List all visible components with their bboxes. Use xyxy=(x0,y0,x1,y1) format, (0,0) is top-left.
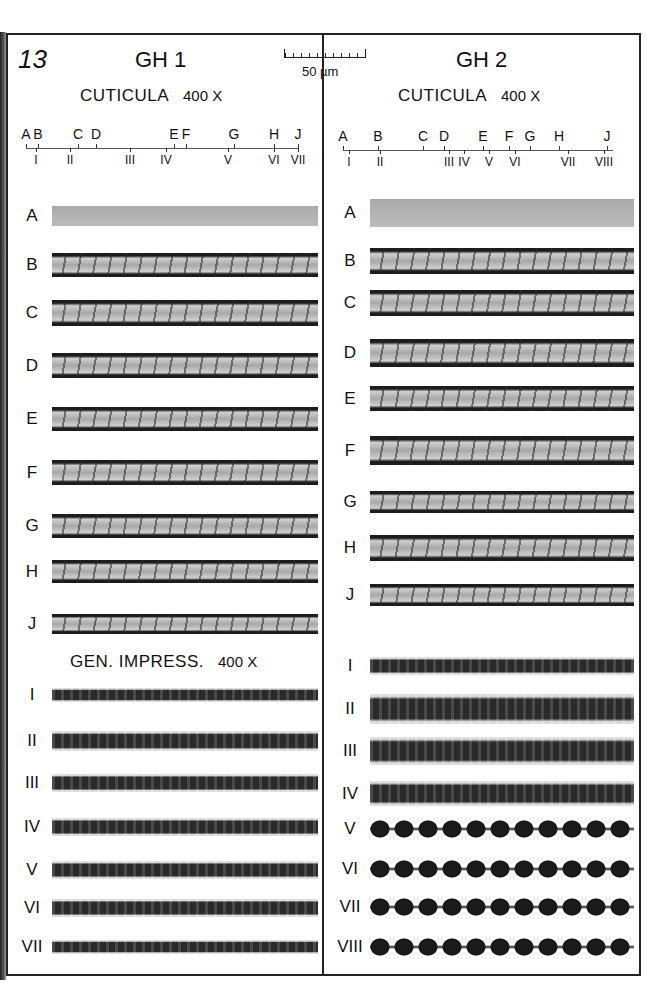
row-label: F xyxy=(18,463,46,483)
axis-label-v: V xyxy=(224,153,232,167)
column-title-gh1: GH 1 xyxy=(135,47,186,73)
axis-tick xyxy=(228,148,229,152)
cuticula-micrograph xyxy=(370,290,634,316)
impress-row-v-gh2: V xyxy=(370,820,634,838)
row-label: III xyxy=(18,773,46,793)
cuticula-micrograph xyxy=(370,386,634,411)
impression-micrograph xyxy=(370,737,634,765)
cuticula-micrograph xyxy=(370,199,634,227)
impress-row-vi-gh2: VI xyxy=(370,860,634,878)
impression-micrograph xyxy=(370,781,634,806)
axis-label-g: G xyxy=(229,126,240,142)
cuticula-row-f-gh1: F xyxy=(52,460,318,485)
axis-tick xyxy=(607,146,608,150)
axis-label-i: I xyxy=(34,153,37,167)
row-label: E xyxy=(18,409,46,429)
axis-tick xyxy=(96,144,97,148)
impress-heading-gh1: GEN. IMPRESS.400 X xyxy=(70,652,257,672)
cuticula-row-a-gh1: A xyxy=(52,206,318,226)
scale-tick xyxy=(341,53,342,57)
hair-axis-gh1: ABCDEFGHJIIIIIIIVVVIVII xyxy=(26,148,298,149)
row-label: D xyxy=(336,343,364,363)
scale-bar-label: 50 µm xyxy=(302,64,338,79)
cuticula-heading-gh1: CUTICULA400 X xyxy=(80,86,222,106)
cuticula-micrograph xyxy=(370,248,634,274)
scale-tick xyxy=(333,53,334,57)
cuticula-micrograph xyxy=(370,535,634,561)
axis-label-e: E xyxy=(478,128,487,144)
figure-number: 13 xyxy=(18,44,47,75)
axis-tick xyxy=(234,144,235,148)
cuticula-row-e-gh2: E xyxy=(370,386,634,411)
axis-label-ii: II xyxy=(67,153,74,167)
hair-axis-gh2: ABCDEFGHJIIIIIIIVVVIVIIVIII xyxy=(343,150,613,151)
row-label: B xyxy=(18,255,46,275)
axis-tick xyxy=(26,144,27,148)
cuticula-micrograph xyxy=(370,339,634,367)
row-label: II xyxy=(18,731,46,751)
axis-tick xyxy=(343,146,344,150)
axis-label-iii: III xyxy=(444,155,454,169)
axis-tick xyxy=(186,144,187,148)
impress-row-i-gh1: I xyxy=(52,688,318,702)
cuticula-micrograph xyxy=(52,206,318,226)
row-label: IV xyxy=(18,817,46,837)
axis-tick xyxy=(423,146,424,150)
scale-tick xyxy=(309,53,310,57)
axis-label-e: E xyxy=(169,126,178,142)
axis-tick xyxy=(568,150,569,154)
axis-tick xyxy=(509,146,510,150)
axis-tick xyxy=(530,146,531,150)
row-label: V xyxy=(18,860,46,880)
axis-label-h: H xyxy=(269,126,279,142)
scale-tick xyxy=(301,53,302,57)
impress-row-vii-gh1: VII xyxy=(52,940,318,954)
axis-tick xyxy=(515,150,516,154)
cuticula-row-f-gh2: F xyxy=(370,436,634,465)
scale-tick xyxy=(317,53,318,57)
cuticula-micrograph xyxy=(370,491,634,513)
row-label: III xyxy=(336,741,364,761)
impression-micrograph xyxy=(52,688,318,702)
cuticula-row-c-gh2: C xyxy=(370,290,634,316)
axis-label-g: G xyxy=(525,128,536,144)
row-label: A xyxy=(18,206,46,226)
axis-label-d: D xyxy=(91,126,101,142)
impress-row-iii-gh1: III xyxy=(52,774,318,792)
axis-label-b: B xyxy=(373,128,382,144)
axis-tick xyxy=(38,144,39,148)
axis-tick xyxy=(464,150,465,154)
impression-micrograph xyxy=(370,820,634,838)
column-title-gh2: GH 2 xyxy=(456,47,507,73)
cuticula-row-j-gh2: J xyxy=(370,584,634,606)
cuticula-row-b-gh1: B xyxy=(52,253,318,277)
axis-label-i: I xyxy=(347,155,350,169)
axis-label-vii: VII xyxy=(291,153,306,167)
cuticula-row-c-gh1: C xyxy=(52,300,318,326)
axis-tick xyxy=(274,148,275,152)
impression-micrograph xyxy=(52,731,318,751)
row-label: D xyxy=(18,356,46,376)
cuticula-micrograph xyxy=(52,407,318,431)
impress-row-ii-gh2: II xyxy=(370,694,634,724)
axis-label-vi: VI xyxy=(509,155,520,169)
row-label: H xyxy=(18,562,46,582)
row-label: B xyxy=(336,251,364,271)
axis-label-iii: III xyxy=(125,153,135,167)
row-label: J xyxy=(18,614,46,634)
row-label: VI xyxy=(18,898,46,918)
cuticula-micrograph xyxy=(52,560,318,583)
row-label: C xyxy=(18,303,46,323)
axis-tick xyxy=(444,146,445,150)
cuticula-micrograph xyxy=(52,353,318,378)
impress-row-vi-gh1: VI xyxy=(52,899,318,917)
axis-label-f: F xyxy=(182,126,191,142)
cuticula-row-j-gh1: J xyxy=(52,614,318,634)
axis-label-a: A xyxy=(338,128,347,144)
row-label: I xyxy=(18,685,46,705)
cuticula-heading-gh2: CUTICULA400 X xyxy=(398,86,540,106)
impression-micrograph xyxy=(52,861,318,879)
axis-label-iv: IV xyxy=(458,155,469,169)
row-label: II xyxy=(336,699,364,719)
row-label: VII xyxy=(336,897,364,917)
